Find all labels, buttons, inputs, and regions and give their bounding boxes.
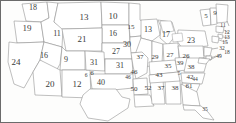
figure-border: [0, 0, 236, 123]
us-map-figure: 18 19 11 13 10 16 21 27 15 30 13 17 37 2…: [0, 0, 236, 123]
